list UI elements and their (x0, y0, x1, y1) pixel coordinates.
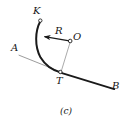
center-to-tangent-line-OT (61, 43, 70, 72)
geometry-figure: K R O A T B (c) (0, 0, 132, 128)
point-label-b: B (112, 81, 119, 91)
straight-line-TB (60, 72, 115, 89)
point-label-k: K (33, 6, 40, 16)
point-marker-O (68, 39, 72, 43)
radius-arrow-R (45, 37, 70, 41)
point-label-t: T (56, 76, 63, 86)
point-marker-K (39, 19, 42, 22)
point-label-o: O (73, 32, 81, 42)
figure-caption: (c) (0, 107, 132, 116)
radius-label-r: R (55, 26, 63, 36)
point-label-a: A (11, 43, 18, 53)
point-marker-T (59, 70, 62, 73)
